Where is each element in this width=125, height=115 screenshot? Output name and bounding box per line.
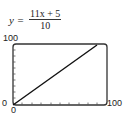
x-min-label: 0 <box>11 105 16 115</box>
viewing-window-frame <box>13 44 107 105</box>
y-min-label: 0 <box>2 98 7 108</box>
graph-line <box>13 45 97 105</box>
x-max-label: 100 <box>107 98 122 108</box>
